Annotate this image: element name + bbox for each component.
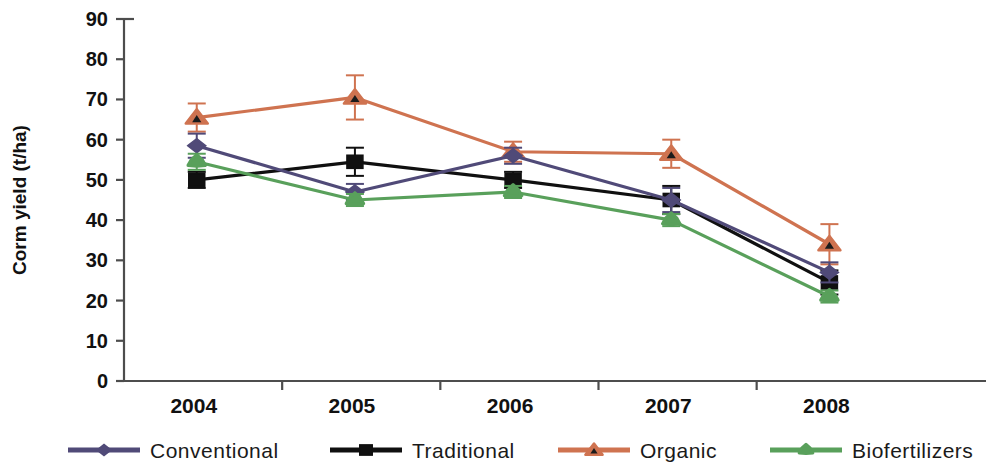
- y-axis-title: Corm yield (t/ha): [9, 125, 30, 275]
- x-tick-label: 2007: [645, 394, 692, 417]
- data-point: [189, 173, 205, 186]
- data-series-layer: [186, 75, 841, 302]
- x-tick-label: 2004: [170, 394, 217, 417]
- x-tick-label: 2005: [329, 394, 376, 417]
- y-tick-label: 60: [86, 129, 108, 151]
- data-point: [344, 89, 366, 103]
- y-tick-label: 50: [86, 169, 108, 191]
- legend-label: Traditional: [412, 439, 515, 462]
- y-tick-label: 10: [86, 330, 108, 352]
- legend-key-marker: [360, 445, 372, 455]
- y-tick-label: 80: [86, 48, 108, 70]
- chart-legend: ConventionalTraditionalOrganicBiofertili…: [68, 439, 973, 462]
- y-tick-label: 70: [86, 88, 108, 110]
- legend-label: Biofertilizers: [852, 439, 973, 462]
- x-axis-ticks: 20042005200620072008: [170, 381, 850, 417]
- x-tick-label: 2006: [487, 394, 534, 417]
- legend-item-conventional[interactable]: Conventional: [68, 439, 279, 462]
- legend-item-biofertilizers[interactable]: Biofertilizers: [770, 439, 973, 462]
- series-line: [197, 97, 830, 244]
- chart-container: Corm yield (t/ha) 0102030405060708090 20…: [0, 0, 986, 463]
- y-tick-label: 0: [97, 370, 108, 392]
- y-tick-label: 30: [86, 249, 108, 271]
- corm-yield-line-chart: Corm yield (t/ha) 0102030405060708090 20…: [0, 0, 986, 463]
- y-axis-label: Corm yield (t/ha): [9, 125, 30, 275]
- y-axis-ticks: 0102030405060708090: [86, 8, 124, 392]
- y-tick-label: 20: [86, 290, 108, 312]
- y-tick-label: 90: [86, 8, 108, 30]
- data-point: [188, 155, 205, 167]
- legend-item-organic[interactable]: Organic: [558, 439, 717, 462]
- legend-key-marker: [97, 445, 111, 456]
- data-point: [347, 155, 363, 168]
- legend-key-marker: [799, 444, 813, 453]
- y-tick-label: 40: [86, 209, 108, 231]
- x-tick-label: 2008: [803, 394, 850, 417]
- legend-label: Conventional: [150, 439, 279, 462]
- data-point: [188, 139, 206, 153]
- legend-label: Organic: [640, 439, 717, 462]
- legend-item-traditional[interactable]: Traditional: [330, 439, 515, 462]
- series-conventional: [188, 134, 839, 283]
- series-traditional: [188, 148, 839, 295]
